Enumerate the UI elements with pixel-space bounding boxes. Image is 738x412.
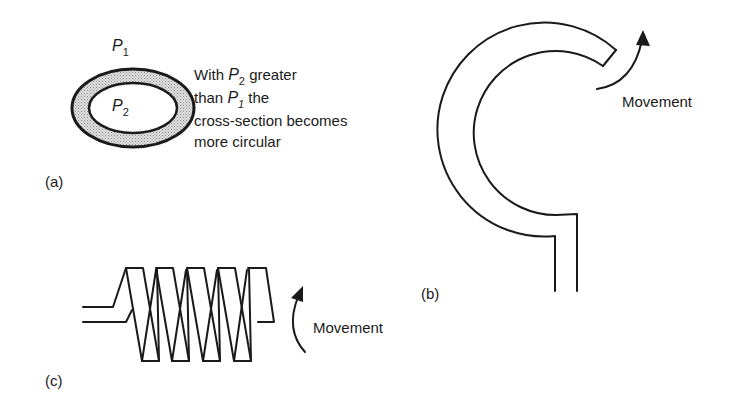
movement-arrowhead-c: [291, 286, 303, 302]
svg-text:more circular: more circular: [194, 133, 281, 150]
helix-inlet-upper: [83, 268, 126, 307]
movement-arrowhead-b: [636, 30, 650, 46]
bourdon-tube-outer-wall: [437, 23, 616, 291]
tube-cross-section-inner: [89, 83, 177, 133]
panel-b: Movement (b): [421, 23, 693, 302]
outer-pressure-label: P1: [112, 37, 129, 58]
svg-text:cross-section becomes: cross-section becomes: [194, 112, 347, 129]
svg-text:than P1 the: than P1 the: [194, 89, 269, 110]
movement-arrow-curve-c: [293, 297, 305, 352]
svg-text:With P2 greater: With P2 greater: [194, 66, 297, 87]
helix-inlet-lower: [83, 310, 132, 322]
movement-label-b: Movement: [622, 93, 693, 110]
panel-c: Movement (c): [45, 268, 384, 389]
panel-b-label: (b): [421, 285, 439, 302]
helical-tube-coils: [126, 268, 251, 361]
bourdon-tube-sealed-tip: [603, 50, 616, 66]
bourdon-tube-inner-wall: [474, 51, 603, 291]
helix-sealed-end: [248, 268, 274, 322]
panel-a-label: (a): [45, 173, 63, 190]
panel-a-caption: With P2 greater than P1 the cross-sectio…: [194, 66, 347, 150]
movement-label-c: Movement: [313, 319, 384, 336]
panel-c-label: (c): [45, 372, 63, 389]
panel-a: P1 P2 With P2 greater than P1 the cross-…: [45, 37, 347, 190]
pressure-element-diagram: P1 P2 With P2 greater than P1 the cross-…: [0, 0, 738, 412]
